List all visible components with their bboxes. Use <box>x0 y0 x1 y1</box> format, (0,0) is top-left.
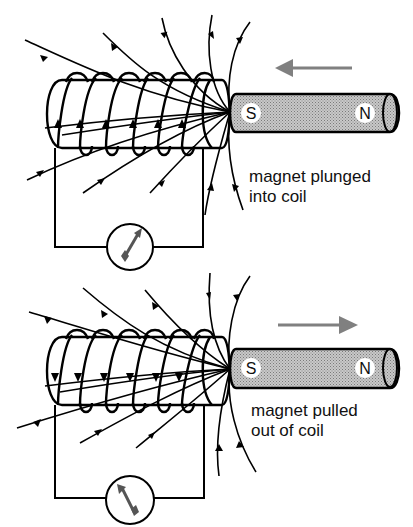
galvanometer-icon <box>107 224 153 270</box>
caption-line-1: magnet plunged <box>249 167 371 186</box>
caption-line-1: magnet pulled <box>251 401 358 420</box>
current-arrow-down-icon <box>51 373 59 382</box>
south-pole-label: S <box>246 360 257 377</box>
coil-icon <box>47 330 230 412</box>
panel-plunged-into-coil: S N magnet plunged into coil <box>25 15 399 270</box>
bar-magnet-icon[interactable]: S N <box>230 94 399 132</box>
caption-line-2: into coil <box>249 187 307 206</box>
bar-magnet-icon[interactable]: S N <box>230 349 399 388</box>
caption-line-2: out of coil <box>251 421 324 440</box>
north-pole-label: N <box>359 360 371 377</box>
motion-arrow-right-icon <box>278 316 358 334</box>
coil-icon <box>47 73 230 155</box>
north-pole-label: N <box>359 105 371 122</box>
galvanometer-icon <box>106 476 154 524</box>
motion-arrow-left-icon <box>275 59 352 77</box>
panel-pulled-out-of-coil: S N magnet pulled out of coil <box>17 273 399 524</box>
south-pole-label: S <box>246 105 257 122</box>
